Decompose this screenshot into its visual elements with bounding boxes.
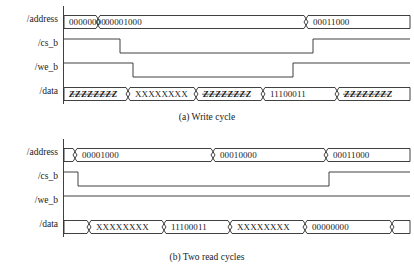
bus-value: 00000000 — [312, 222, 349, 232]
bus-value: 00011000 — [313, 17, 350, 27]
bus-value: 00010000 — [220, 150, 257, 160]
bus-value: 00001000 — [82, 150, 119, 160]
bus-value: 00000000 — [69, 17, 106, 27]
panel-write-cycle: /address /cs_b /we_b /data 0000000000001… — [0, 0, 414, 133]
waveform-canvas-a: 000000000000100000011000ZZZZZZZZXXXXXXXX… — [0, 0, 414, 108]
panel-read-cycles: /address /cs_b /we_b /data 0000100000010… — [0, 133, 414, 273]
bus-value: 00011000 — [333, 150, 370, 160]
waveform-svg-wrap-a: 000000000000100000011000ZZZZZZZZXXXXXXXX… — [0, 0, 414, 108]
bus-value: XXXXXXXX — [237, 222, 290, 232]
panel-caption-a: (a) Write cycle — [0, 112, 414, 122]
timing-diagram-figure: /address /cs_b /we_b /data 0000000000001… — [0, 0, 414, 273]
waveform-canvas-b: 000010000001000000011000XXXXXXXX11100011… — [0, 133, 414, 241]
bus-value: XXXXXXXX — [135, 89, 188, 99]
waveform-area-a: /address /cs_b /we_b /data 0000000000001… — [0, 0, 414, 108]
waveform-svg-wrap-b: 000010000001000000011000XXXXXXXX11100011… — [0, 133, 414, 241]
bus-value: 00001000 — [105, 17, 142, 27]
bus-value: 11100011 — [270, 89, 306, 99]
panel-caption-b: (b) Two read cycles — [0, 252, 414, 262]
waveform-area-b: /address /cs_b /we_b /data 0000100000010… — [0, 133, 414, 241]
bus-value: 11100011 — [171, 222, 207, 232]
bus-value: XXXXXXXX — [96, 222, 149, 232]
